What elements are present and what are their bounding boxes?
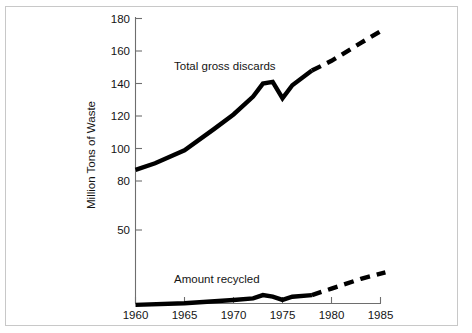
x-tick-label-1965: 1965 <box>172 309 198 321</box>
y-tick-label-140: 140 <box>111 78 130 90</box>
y-tick-label-100: 100 <box>111 143 130 155</box>
amount-recycled-label: Amount recycled <box>174 273 260 285</box>
y-tick-label-160: 160 <box>111 45 130 57</box>
total-gross-discards-label: Total gross discards <box>174 60 276 72</box>
x-tick-label-1985: 1985 <box>368 309 394 321</box>
x-tick-label-1980: 1980 <box>319 309 345 321</box>
y-tick-label-80: 80 <box>117 175 130 187</box>
y-tick-label-180: 180 <box>111 13 130 25</box>
y-tick-label-50: 50 <box>117 224 130 236</box>
chart-figure: Million Tons of Waste 180 160 140 120 10… <box>0 0 472 333</box>
total-gross-discards-dashed-line <box>312 28 386 70</box>
y-tick-label-120: 120 <box>111 110 130 122</box>
waste-line-chart: Million Tons of Waste 180 160 140 120 10… <box>0 0 472 333</box>
x-axis-labels: 1960 1965 1970 1975 1980 1985 <box>123 309 394 321</box>
y-axis-title: Million Tons of Waste <box>85 101 97 209</box>
x-tick-label-1975: 1975 <box>270 309 296 321</box>
amount-recycled-dashed-line <box>312 272 386 295</box>
x-tick-label-1970: 1970 <box>221 309 247 321</box>
y-axis-ticks <box>136 19 143 231</box>
total-gross-discards-solid-line <box>136 71 312 170</box>
y-axis-labels: 180 160 140 120 100 80 50 <box>111 13 130 237</box>
x-tick-label-1960: 1960 <box>123 309 149 321</box>
